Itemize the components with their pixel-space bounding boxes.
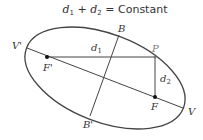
label-b-prime: B'	[83, 120, 93, 130]
point-p-dot	[154, 56, 157, 59]
ellipse-diagram: d1 + d2 = Constant V' V B B' F' F P d1 d…	[0, 0, 203, 140]
ellipse-figure	[0, 0, 203, 140]
label-d1: d1	[91, 43, 102, 55]
focus-f-prime-dot	[45, 55, 49, 59]
label-d2: d2	[160, 74, 171, 86]
label-v-prime: V'	[12, 41, 22, 51]
d2-label-subscript: 2	[166, 78, 170, 86]
label-b: B	[118, 24, 125, 34]
d1-label-subscript: 1	[97, 47, 101, 55]
label-p: P	[152, 44, 159, 54]
label-f-prime: F'	[43, 63, 53, 73]
focus-f-dot	[153, 95, 157, 99]
label-f: F	[151, 102, 158, 112]
label-v: V	[188, 107, 195, 117]
